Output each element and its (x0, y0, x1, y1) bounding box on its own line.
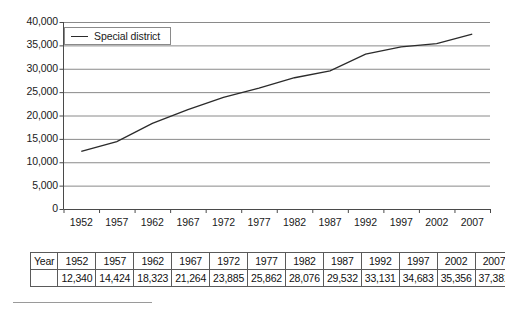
table-cell-value: 23,885 (210, 270, 248, 287)
x-axis-tick-label: 1967 (168, 216, 208, 228)
chart-legend: Special district (64, 27, 171, 45)
table-cell-value: 33,131 (361, 270, 399, 287)
table-cell-value: 28,076 (285, 270, 323, 287)
x-axis-tick-label: 1982 (275, 216, 315, 228)
table-cell-year: 1962 (134, 253, 172, 270)
table-cell-year: 1992 (361, 253, 399, 270)
figure-root: 05,00010,00015,00020,00025,00030,00035,0… (0, 0, 505, 312)
y-axis-tick-label: 40,000 (4, 15, 58, 27)
y-axis-ticks (60, 23, 64, 210)
table-cell-value: 37,381 (475, 270, 505, 287)
y-axis-tick-label: 15,000 (4, 132, 58, 144)
table-cell-value: 14,424 (96, 270, 134, 287)
x-axis-tick-label: 1972 (203, 216, 243, 228)
table-cell-year: 1982 (285, 253, 323, 270)
table-row-label-blank (31, 270, 58, 287)
x-axis-tick-label: 1957 (97, 216, 137, 228)
footnote-separator-rule (13, 302, 152, 303)
y-axis-tick-label: 20,000 (4, 109, 58, 121)
table-cell-year: 2002 (437, 253, 475, 270)
table-cell-value: 34,683 (399, 270, 437, 287)
line-chart: 05,00010,00015,00020,00025,00030,00035,0… (0, 0, 505, 240)
y-axis-tick-label: 5,000 (4, 179, 58, 191)
y-axis-tick-label: 0 (4, 202, 58, 214)
table-cell-value: 35,356 (437, 270, 475, 287)
x-axis-tick-label: 2007 (452, 216, 492, 228)
y-axis-tick-label: 10,000 (4, 155, 58, 167)
table-cell-year: 1977 (248, 253, 286, 270)
table-row-years: Year 19521957196219671972197719821987199… (31, 253, 505, 270)
y-axis-tick-label: 35,000 (4, 38, 58, 50)
gridlines (64, 23, 491, 187)
y-axis-tick-label: 30,000 (4, 62, 58, 74)
data-table-container: Year 19521957196219671972197719821987199… (30, 252, 505, 287)
x-axis-tick-label: 2002 (417, 216, 457, 228)
table-row-values: 12,34014,42418,32321,26423,88525,86228,0… (31, 270, 505, 287)
x-axis-tick-label: 1962 (132, 216, 172, 228)
table-row-label-year: Year (31, 253, 58, 270)
legend-label: Special district (94, 30, 160, 42)
x-axis-tick-label: 1952 (61, 216, 101, 228)
x-axis-tick-label: 1992 (346, 216, 386, 228)
table-cell-year: 1952 (58, 253, 96, 270)
legend-line-swatch-icon (71, 36, 88, 37)
data-table: Year 19521957196219671972197719821987199… (30, 252, 505, 287)
table-cell-year: 1972 (210, 253, 248, 270)
table-cell-value: 21,264 (172, 270, 210, 287)
table-cell-value: 29,532 (323, 270, 361, 287)
table-cell-value: 18,323 (134, 270, 172, 287)
y-axis-tick-label: 25,000 (4, 85, 58, 97)
x-axis-tick-label: 1977 (239, 216, 279, 228)
table-cell-value: 25,862 (248, 270, 286, 287)
table-cell-year: 1987 (323, 253, 361, 270)
table-cell-value: 12,340 (58, 270, 96, 287)
x-axis-tick-label: 1997 (381, 216, 421, 228)
table-cell-year: 1967 (172, 253, 210, 270)
table-cell-year: 2007 (475, 253, 505, 270)
x-axis-tick-label: 1987 (310, 216, 350, 228)
table-cell-year: 1997 (399, 253, 437, 270)
table-cell-year: 1957 (96, 253, 134, 270)
